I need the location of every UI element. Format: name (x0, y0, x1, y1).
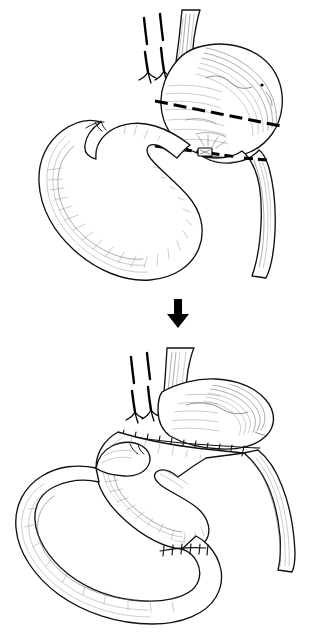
vagus-nerve-trunks (126, 353, 159, 423)
jejunal-roux-limb (16, 432, 244, 624)
figure-canvas (0, 0, 314, 643)
jejunal-loop (39, 120, 202, 280)
gastric-pouch (158, 379, 274, 449)
surgical-illustration-figure (0, 0, 314, 643)
duodenum (196, 150, 275, 278)
serosal-landmark-dot (260, 83, 263, 86)
panel-before (39, 10, 282, 280)
efferent-limb (244, 450, 295, 572)
vagus-nerve-trunks (139, 14, 172, 83)
panel-after (16, 348, 295, 624)
progression-arrow (167, 299, 189, 328)
